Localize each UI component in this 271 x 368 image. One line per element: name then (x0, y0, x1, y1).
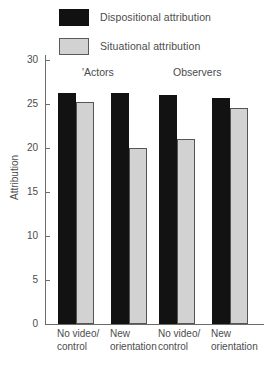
x-tick-label-3-line2: control (158, 341, 200, 354)
x-tick-label-4-line2: orientation (211, 341, 258, 354)
x-tick-label-3: No video/ control (158, 328, 200, 353)
x-tick-label-2-line2: orientation (110, 341, 157, 354)
bar-situational-g2 (129, 148, 147, 324)
chart-screenshot: { "legend": { "items": [ { "label": "Dis… (0, 0, 271, 368)
x-tick-label-1: No video/ control (57, 328, 99, 353)
bar-dispositional-g3 (159, 95, 177, 324)
bar-dispositional-g2 (111, 93, 129, 324)
x-tick-label-2-line1: New (110, 328, 130, 339)
bar-situational-g4 (230, 108, 248, 324)
x-tick-label-4-line1: New (211, 328, 231, 339)
x-tick-label-4: New orientation (211, 328, 258, 353)
x-tick-label-3-line1: No video/ (158, 328, 200, 339)
x-tick-label-1-line2: control (57, 341, 99, 354)
bar-dispositional-g1 (58, 93, 76, 324)
bar-situational-g1 (76, 102, 94, 324)
x-tick-label-2: New orientation (110, 328, 157, 353)
bars-layer (0, 0, 271, 368)
x-tick-label-1-line1: No video/ (57, 328, 99, 339)
bar-dispositional-g4 (212, 98, 230, 324)
bar-situational-g3 (177, 139, 195, 324)
